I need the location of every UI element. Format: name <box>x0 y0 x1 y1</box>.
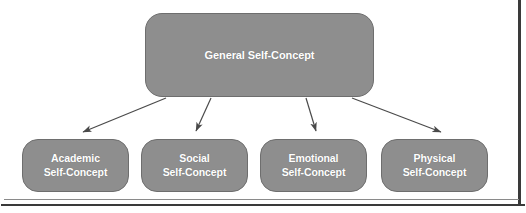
node-general-label: General Self-Concept <box>205 48 315 63</box>
edge-general-to-emotional <box>306 98 316 131</box>
node-emotional-self-concept[interactable]: Emotional Self-Concept <box>260 139 367 192</box>
node-academic-line1: Academic <box>51 152 100 164</box>
frame-border-right <box>518 0 521 206</box>
frame-rule-upper <box>4 199 519 200</box>
edge-general-to-social <box>196 98 211 131</box>
node-physical-line2: Self-Concept <box>403 166 467 180</box>
node-physical-label: Physical Self-Concept <box>403 152 467 180</box>
node-emotional-line2: Self-Concept <box>282 166 346 180</box>
node-physical-line1: Physical <box>414 152 456 164</box>
node-academic-line2: Self-Concept <box>44 166 108 180</box>
node-physical-self-concept[interactable]: Physical Self-Concept <box>381 139 488 192</box>
node-academic-label: Academic Self-Concept <box>44 152 108 180</box>
node-social-self-concept[interactable]: Social Self-Concept <box>141 139 248 192</box>
node-emotional-label: Emotional Self-Concept <box>282 152 346 180</box>
node-social-line2: Self-Concept <box>163 166 227 180</box>
frame-rule-lower <box>1 204 525 206</box>
edge-general-to-academic <box>83 98 166 132</box>
node-academic-self-concept[interactable]: Academic Self-Concept <box>22 139 129 192</box>
diagram-canvas: General Self-Concept Academic Self-Conce… <box>0 0 526 213</box>
node-emotional-line1: Emotional <box>289 152 339 164</box>
node-general-self-concept[interactable]: General Self-Concept <box>145 13 374 97</box>
node-social-label: Social Self-Concept <box>163 152 227 180</box>
edge-general-to-physical <box>352 98 441 132</box>
node-social-line1: Social <box>179 152 209 164</box>
